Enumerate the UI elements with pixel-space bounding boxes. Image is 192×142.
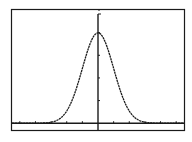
calculator-graph-screen (0, 0, 192, 142)
